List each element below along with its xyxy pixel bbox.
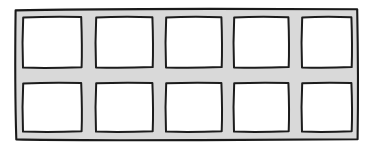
sketch-canvas xyxy=(0,0,377,148)
pane-r1c5 xyxy=(302,17,352,68)
pane-r2c3 xyxy=(166,83,222,132)
window-grid-figure xyxy=(0,0,377,148)
pane-r1c1 xyxy=(23,17,82,68)
pane-r2c4 xyxy=(234,83,289,132)
pane-r1c3 xyxy=(166,17,222,68)
pane-r1c2 xyxy=(96,17,153,68)
pane-r2c1 xyxy=(23,83,82,132)
pane-r2c5 xyxy=(302,83,352,132)
pane-r1c4 xyxy=(234,17,289,68)
pane-r2c2 xyxy=(96,83,153,132)
